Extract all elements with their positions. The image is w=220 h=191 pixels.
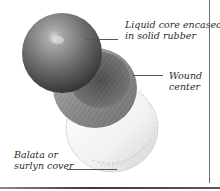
label-core: Liquid core encased in solid rubber [125,19,220,41]
diagram-frame: Liquid core encased in solid rubber Woun… [0,0,220,191]
label-cover: Balata or surlyn cover [14,149,74,171]
liquid-core [22,13,102,93]
label-cover-line1: Balata or [14,149,74,160]
label-wound-line1: Wound [169,70,202,81]
frame-right-border [209,0,210,183]
label-cover-line2: surlyn cover [14,160,74,171]
label-core-line1: Liquid core encased [125,19,220,30]
leader-line-wound [133,75,163,76]
label-wound: Wound center [169,70,202,92]
frame-bottom-border [0,187,220,189]
leader-line-core [86,39,118,40]
label-core-line2: in solid rubber [125,30,220,41]
leader-line-cover [67,169,117,170]
label-wound-line2: center [169,81,202,92]
